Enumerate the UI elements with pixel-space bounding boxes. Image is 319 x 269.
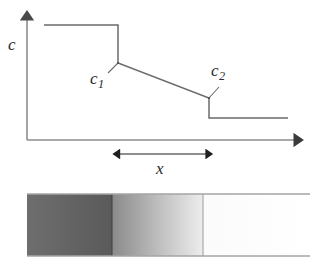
c1-marker-dot — [117, 62, 119, 64]
c1-label-subscript: 1 — [98, 77, 105, 91]
diffusion-concentration-figure: c c1 c2 x — [0, 0, 319, 269]
c2-label-subscript: 2 — [219, 69, 226, 83]
concentration-profile — [44, 25, 288, 118]
y-axis-label: c — [8, 36, 16, 53]
c1-label-base: c — [90, 69, 98, 88]
c2-label-base: c — [211, 61, 219, 80]
c2-leader-line — [209, 87, 219, 98]
c2-marker-dot — [208, 97, 210, 99]
figure-canvas — [0, 0, 319, 269]
c1-leader-line — [108, 63, 118, 73]
left-phase-zone — [27, 194, 112, 256]
c1-label: c1 — [90, 70, 104, 90]
c2-label: c2 — [211, 62, 225, 82]
diffusion-couple-bar — [27, 194, 310, 256]
layer-thickness-label: x — [156, 160, 164, 177]
intermediate-phase-zone — [112, 194, 203, 256]
right-phase-zone — [203, 194, 310, 256]
